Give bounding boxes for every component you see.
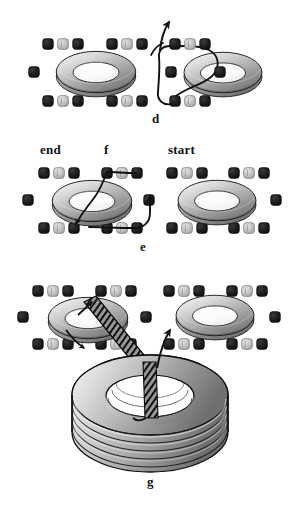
label-end: end bbox=[40, 143, 61, 156]
panel-g bbox=[18, 286, 281, 472]
bead-light bbox=[242, 286, 253, 297]
bead-dark bbox=[137, 96, 148, 107]
bead-dark bbox=[227, 286, 238, 297]
bead-dark bbox=[73, 39, 84, 50]
bead-light bbox=[54, 223, 65, 234]
bead-dark-center bbox=[215, 67, 226, 78]
bead-dark bbox=[227, 339, 238, 350]
bead-dark bbox=[33, 286, 44, 297]
bead-dark bbox=[96, 286, 107, 297]
bead-light bbox=[122, 96, 133, 107]
bead-dark bbox=[167, 223, 178, 234]
bead-light bbox=[179, 286, 190, 297]
bead-light bbox=[244, 223, 255, 234]
bead-dark bbox=[270, 312, 281, 323]
bead-light bbox=[58, 39, 69, 50]
bead-dark bbox=[257, 339, 268, 350]
bead-dark bbox=[144, 195, 155, 206]
bead-dark bbox=[23, 195, 34, 206]
bead-light bbox=[122, 39, 133, 50]
diagram-svg bbox=[0, 0, 301, 506]
bead-dark bbox=[33, 339, 44, 350]
panel-label-f: f bbox=[104, 143, 109, 156]
label-start: start bbox=[168, 143, 195, 156]
bead-dark bbox=[229, 168, 240, 179]
bead-dark bbox=[18, 312, 29, 323]
core-ribbon bbox=[143, 362, 158, 418]
bead-dark bbox=[29, 67, 40, 78]
figure-canvas: d end f start e g bbox=[0, 0, 301, 506]
bead-dark bbox=[164, 286, 175, 297]
bead-dark bbox=[137, 39, 148, 50]
bead-dark bbox=[69, 168, 80, 179]
bead-light bbox=[244, 168, 255, 179]
bead-dark bbox=[43, 39, 54, 50]
bead-dark bbox=[63, 286, 74, 297]
torus-right bbox=[176, 295, 254, 340]
bead-dark bbox=[259, 168, 270, 179]
bead-light bbox=[54, 168, 65, 179]
bead-dark bbox=[200, 96, 211, 107]
bead-dark bbox=[200, 39, 211, 50]
panel-label-g: g bbox=[147, 475, 154, 488]
bead-dark bbox=[126, 286, 137, 297]
bead-dark bbox=[141, 312, 152, 323]
bead-light bbox=[111, 286, 122, 297]
bead-dark bbox=[229, 223, 240, 234]
bead-dark bbox=[43, 96, 54, 107]
bead-light bbox=[58, 96, 69, 107]
bead-dark bbox=[257, 286, 268, 297]
bead-light bbox=[182, 223, 193, 234]
bead-dark bbox=[197, 168, 208, 179]
bead-light bbox=[242, 339, 253, 350]
bead-light bbox=[48, 286, 59, 297]
bead-light bbox=[179, 339, 190, 350]
bead-dark bbox=[39, 168, 50, 179]
bead-dark bbox=[170, 39, 181, 50]
bead-dark bbox=[167, 168, 178, 179]
bead-light bbox=[48, 339, 59, 350]
bead-dark bbox=[107, 39, 118, 50]
bead-light bbox=[185, 39, 196, 50]
bead-dark bbox=[39, 223, 50, 234]
bead-dark bbox=[259, 223, 270, 234]
torus-right bbox=[178, 180, 256, 225]
bead-dark bbox=[166, 67, 177, 78]
torus-left bbox=[52, 180, 132, 226]
panel-ef bbox=[23, 168, 282, 234]
bead-dark bbox=[271, 195, 282, 206]
bead-dark bbox=[194, 286, 205, 297]
torus-left bbox=[56, 51, 136, 96]
bead-dark bbox=[73, 96, 84, 107]
panel-d bbox=[29, 22, 262, 106]
panel-label-d: d bbox=[152, 112, 159, 125]
bead-dark bbox=[107, 96, 118, 107]
panel-label-e: e bbox=[140, 240, 146, 253]
bead-dark bbox=[170, 96, 181, 107]
bead-dark bbox=[194, 339, 205, 350]
bead-light bbox=[182, 168, 193, 179]
bead-light bbox=[185, 96, 196, 107]
